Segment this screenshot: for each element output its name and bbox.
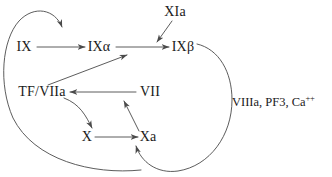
node-ix: IX: [16, 40, 31, 54]
edge-xia-to-conversion: [157, 21, 172, 42]
cofactor-charge-superscript: ++: [306, 93, 315, 103]
node-xia: XIa: [164, 5, 186, 19]
edge-xa-to-vii: [124, 101, 139, 131]
edge-ix-beta-loop-to-xa: [136, 44, 232, 171]
node-ix-beta: IXβ: [172, 40, 195, 54]
node-tf-viia: TF/VIIa: [18, 85, 65, 99]
cofactor-complex-text: VIIIa, PF3, Ca: [232, 95, 306, 109]
edge-tf-viia-to-x: [64, 98, 92, 128]
node-ix-alpha: IXα: [88, 40, 111, 54]
cofactor-complex-label: VIIIa, PF3, Ca++: [232, 94, 315, 109]
node-x: X: [82, 130, 92, 144]
node-xa: Xa: [140, 130, 157, 144]
node-vii: VII: [140, 85, 160, 99]
edge-xa-loop-to-ix-alpha: [48, 55, 127, 85]
coagulation-cascade-diagram: IX IXα IXβ XIa TF/VIIa VII X Xa VIIIa, P…: [0, 0, 332, 177]
